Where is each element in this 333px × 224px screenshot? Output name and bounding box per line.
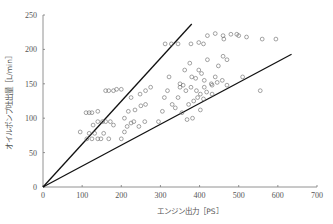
data-point — [87, 131, 91, 135]
data-point — [191, 116, 195, 120]
data-point — [202, 97, 206, 101]
data-point — [198, 108, 202, 112]
data-point — [138, 92, 142, 96]
data-point — [188, 61, 192, 65]
data-point — [216, 64, 220, 68]
y-ticks: 050100150200250 — [25, 11, 45, 192]
data-point — [143, 120, 147, 124]
data-point — [170, 103, 174, 107]
data-point — [112, 123, 116, 127]
data-point — [115, 87, 119, 91]
data-point — [123, 116, 127, 120]
data-point — [144, 89, 148, 93]
data-point — [260, 37, 264, 41]
data-point — [90, 137, 94, 141]
data-point — [185, 118, 189, 122]
data-point — [225, 83, 229, 87]
data-point — [133, 108, 137, 112]
upper-bound-line — [43, 24, 192, 187]
x-tick-label: 500 — [233, 191, 245, 200]
data-point — [222, 37, 226, 41]
data-point — [166, 89, 170, 93]
data-point — [176, 42, 180, 46]
data-point — [213, 75, 217, 79]
data-point — [107, 137, 111, 141]
x-tick-label: 700 — [311, 191, 323, 200]
data-point — [96, 109, 100, 113]
data-point — [220, 78, 224, 82]
data-point — [91, 123, 95, 127]
data-point — [198, 92, 202, 96]
data-point — [209, 82, 213, 86]
data-point — [139, 104, 143, 108]
data-point — [78, 130, 82, 134]
data-point — [149, 85, 153, 89]
data-point — [102, 131, 106, 135]
data-point — [202, 85, 206, 89]
data-point — [187, 103, 191, 107]
data-point — [197, 41, 201, 45]
data-point — [137, 125, 141, 129]
x-tick-label: 600 — [272, 191, 284, 200]
data-point — [90, 111, 94, 115]
data-point — [189, 42, 193, 46]
data-point — [202, 42, 206, 46]
data-point — [119, 137, 123, 141]
data-point — [160, 109, 164, 113]
x-tick-label: 200 — [115, 191, 127, 200]
data-point — [157, 120, 161, 124]
data-point — [190, 75, 194, 79]
y-tick-label: 150 — [25, 80, 37, 89]
data-point — [162, 96, 166, 100]
data-point — [221, 54, 225, 58]
data-point — [229, 32, 233, 36]
data-point — [184, 89, 188, 93]
data-point — [194, 76, 198, 80]
data-point — [210, 92, 214, 96]
data-point — [126, 109, 130, 113]
y-axis-title: オイルポンプ吐出量［L/min］ — [4, 52, 14, 150]
data-point — [93, 131, 97, 135]
data-points — [78, 32, 278, 141]
data-point — [189, 85, 193, 89]
scatter-chart: 0100200300400500600700 050100150200250 エ… — [0, 0, 333, 224]
data-point — [167, 75, 171, 79]
data-point — [108, 120, 112, 124]
data-point — [144, 103, 148, 107]
data-point — [129, 96, 133, 100]
data-point — [213, 32, 217, 36]
reference-lines — [43, 24, 292, 187]
data-point — [202, 78, 206, 82]
data-point — [125, 125, 129, 129]
data-point — [200, 72, 204, 76]
data-point — [274, 37, 278, 41]
data-point — [196, 96, 200, 100]
data-point — [119, 87, 123, 91]
data-point — [173, 106, 177, 110]
x-tick-label: 400 — [194, 191, 206, 200]
data-point — [163, 42, 167, 46]
data-point — [258, 89, 262, 93]
y-tick-label: 100 — [25, 114, 37, 123]
data-point — [195, 89, 199, 93]
y-tick-label: 0 — [33, 183, 37, 192]
data-point — [183, 68, 187, 72]
x-axis-title: エンジン出力［PS］ — [157, 206, 222, 216]
data-point — [215, 81, 219, 85]
data-point — [225, 58, 229, 62]
data-point — [245, 35, 249, 39]
data-point — [206, 34, 210, 38]
data-point — [123, 130, 127, 134]
data-point — [197, 68, 201, 72]
y-tick-label: 200 — [25, 45, 37, 54]
lower-bound-line — [43, 54, 292, 187]
data-point — [206, 58, 210, 62]
data-point — [176, 96, 180, 100]
x-tick-label: 100 — [76, 191, 88, 200]
y-tick-label: 250 — [25, 11, 37, 20]
x-tick-label: 0 — [41, 191, 45, 200]
y-tick-label: 50 — [29, 149, 37, 158]
data-point — [241, 75, 245, 79]
data-point — [96, 120, 100, 124]
data-point — [205, 90, 209, 94]
